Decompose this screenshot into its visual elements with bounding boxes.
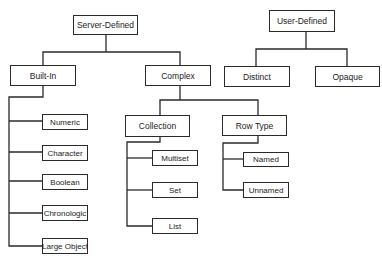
node-boolean: Boolean — [42, 174, 88, 190]
node-opaque: Opaque — [315, 66, 380, 87]
node-complex: Complex — [145, 65, 211, 86]
edge-server-defined-branch — [43, 52, 180, 65]
node-large-object: Large Object — [42, 238, 88, 254]
node-set: Set — [152, 182, 198, 198]
node-distinct: Distinct — [224, 66, 290, 87]
node-built-in: Built-In — [10, 65, 76, 86]
node-user-defined: User-Defined — [269, 10, 335, 32]
edge-complex-branch — [160, 100, 258, 115]
node-numeric: Numeric — [42, 114, 88, 130]
node-server-defined: Server-Defined — [73, 15, 138, 35]
node-named: Named — [243, 152, 289, 167]
node-row-type: Row Type — [222, 115, 287, 136]
node-collection: Collection — [125, 115, 190, 137]
node-list: List — [152, 218, 198, 234]
edge-built-in-spine — [9, 86, 43, 246]
edge-user-defined-branch — [256, 49, 347, 66]
node-chronologic: Chronologic — [42, 205, 88, 221]
node-unnamed: Unnamed — [243, 182, 289, 198]
node-multiset: Multiset — [152, 150, 198, 166]
node-character: Character — [42, 145, 88, 161]
